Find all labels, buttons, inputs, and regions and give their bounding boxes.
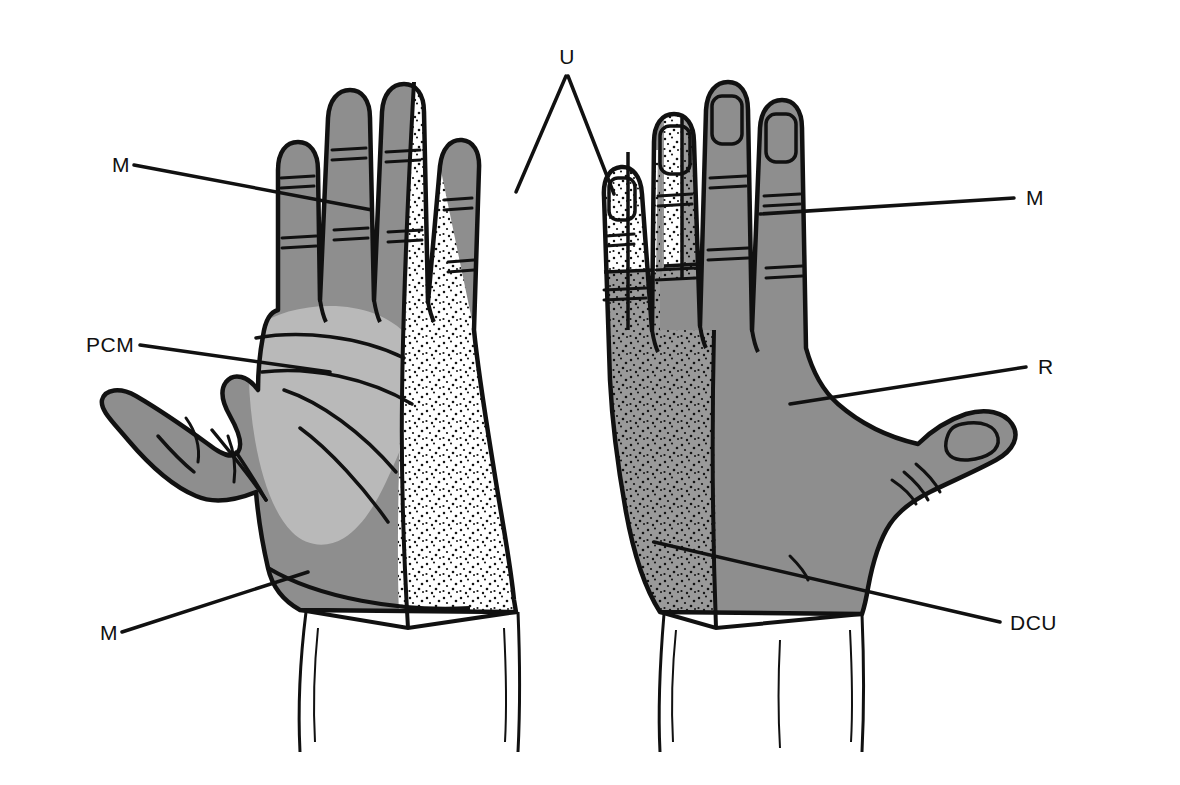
label-median-left-top: M [112,153,130,176]
label-median-left-bottom: M [100,621,118,644]
hand-innervation-diagram: M PCM M U M R DCU [0,0,1180,785]
label-median-right: M [1026,186,1044,209]
label-dcu-right: DCU [1010,611,1057,634]
diagram-background [0,0,1180,785]
label-ulnar-top: U [559,45,575,68]
label-pcm-left: PCM [86,333,134,356]
figure-root: M PCM M U M R DCU [0,0,1180,785]
label-radial-right: R [1038,355,1054,378]
right-hand-ulnar-ring-finger-radial-half [664,116,682,266]
